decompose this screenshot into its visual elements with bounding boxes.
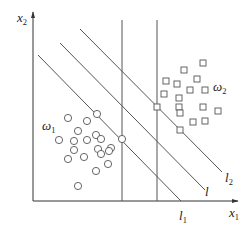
circle-point	[83, 117, 90, 124]
square-point	[190, 119, 196, 125]
line-label-l1: l1	[179, 208, 187, 225]
circle-point	[83, 136, 90, 143]
square-point	[181, 67, 187, 73]
square-point	[177, 110, 183, 116]
circle-point	[64, 155, 71, 162]
square-point	[163, 78, 169, 84]
axes	[33, 12, 238, 201]
classifier-diagram: x1x2ω1ω2l1ll2	[0, 0, 250, 229]
circle-point	[97, 135, 104, 142]
square-point	[176, 95, 182, 101]
square-point	[194, 76, 200, 82]
circle-point	[74, 127, 81, 134]
square-point	[177, 127, 183, 133]
circle-point	[97, 150, 104, 157]
class2-points	[154, 60, 221, 133]
line-l	[60, 43, 205, 190]
square-point	[187, 87, 193, 93]
square-point	[176, 104, 182, 110]
circle-point	[70, 137, 77, 144]
x1-axis-label: x1	[228, 205, 239, 222]
labels: x1x2ω1ω2l1ll2	[16, 10, 239, 225]
square-point	[200, 60, 206, 66]
square-point	[174, 81, 180, 87]
class-label-omega2: ω2	[213, 79, 226, 96]
circle-point	[93, 110, 100, 117]
square-point	[161, 91, 167, 97]
circle-point	[55, 136, 62, 143]
square-point	[215, 108, 221, 114]
circle-point	[92, 167, 99, 174]
circle-point	[105, 147, 112, 154]
circle-point	[104, 160, 111, 167]
square-point	[154, 104, 160, 110]
circle-point	[70, 146, 77, 153]
x2-axis-label: x2	[16, 10, 27, 27]
square-point	[200, 104, 206, 110]
class1-points	[55, 110, 125, 189]
class-label-omega1: ω1	[42, 118, 55, 135]
line-label-l2: l2	[225, 170, 233, 187]
square-point	[202, 118, 208, 124]
circle-point	[80, 153, 87, 160]
circle-point	[74, 182, 81, 189]
line-label-l: l	[205, 184, 209, 199]
line-l1	[38, 55, 181, 201]
square-point	[202, 87, 208, 93]
circle-point	[64, 114, 71, 121]
circle-point	[118, 135, 125, 142]
